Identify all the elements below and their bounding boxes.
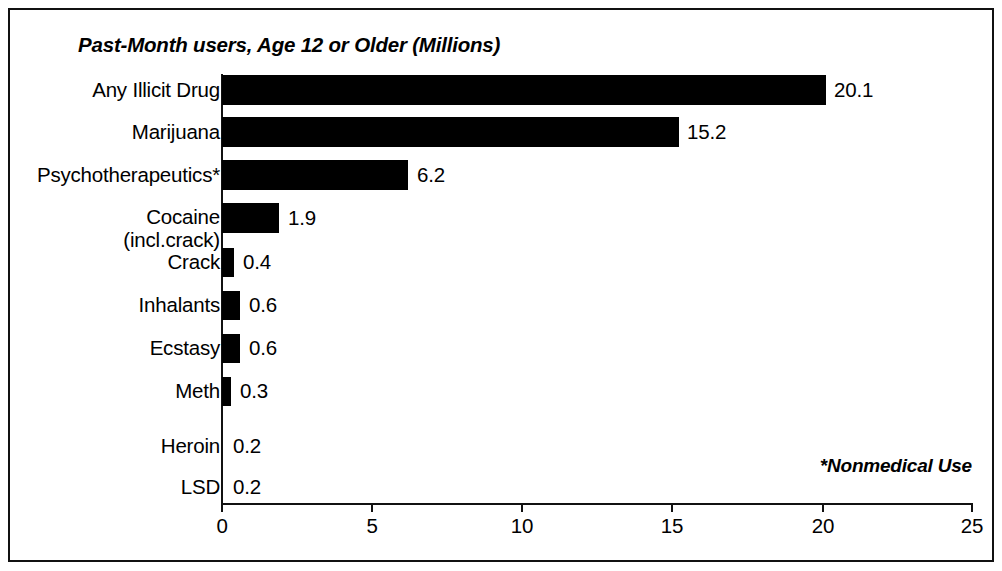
- x-tick-10: [521, 503, 523, 512]
- x-axis-line: [222, 503, 973, 505]
- plot-area: Any Illicit Drug 20.1 Marijuana 15.2 Psy…: [0, 0, 1002, 571]
- x-tick-0: [221, 503, 223, 512]
- x-tick-label-15: 15: [661, 514, 683, 538]
- bar-cocaine: [222, 203, 279, 233]
- chart-footnote: *Nonmedical Use: [820, 455, 972, 477]
- bar-inhalants: [222, 291, 240, 320]
- bar-value-crack: 0.4: [243, 250, 271, 274]
- x-tick-label-25: 25: [961, 514, 983, 538]
- x-tick-label-5: 5: [366, 514, 377, 538]
- category-label-text: LSD: [181, 475, 220, 498]
- category-label-crack: Crack: [167, 250, 220, 273]
- bar-value-heroin: 0.2: [233, 434, 261, 458]
- bar-value-marijuana: 15.2: [687, 120, 726, 144]
- category-label-text: Crack: [167, 250, 220, 273]
- x-tick-5: [371, 503, 373, 512]
- x-tick-25: [971, 503, 973, 512]
- category-label-text: Ecstasy: [150, 336, 220, 359]
- bar-marijuana: [222, 117, 679, 147]
- bar-value-ecstasy: 0.6: [249, 336, 277, 360]
- category-label-meth: Meth: [175, 379, 220, 402]
- bar-value-psychotherapeutics: 6.2: [417, 163, 445, 187]
- category-label-text: Any Illicit Drug: [92, 78, 220, 101]
- category-label-text-line1: Cocaine: [123, 205, 220, 228]
- category-label-psychotherapeutics: Psychotherapeutics*: [37, 163, 220, 186]
- bar-ecstasy: [222, 334, 240, 363]
- bar-value-any-illicit-drug: 20.1: [834, 78, 873, 102]
- category-label-marijuana: Marijuana: [132, 120, 220, 143]
- x-tick-label-0: 0: [216, 514, 227, 538]
- category-label-ecstasy: Ecstasy: [150, 336, 220, 359]
- chart-page: Past-Month users, Age 12 or Older (Milli…: [0, 0, 1002, 571]
- category-label-cocaine: Cocaine (incl.crack): [123, 205, 220, 251]
- bar-any-illicit-drug: [222, 75, 826, 105]
- bar-value-meth: 0.3: [240, 379, 268, 403]
- category-label-inhalants: Inhalants: [139, 293, 220, 316]
- bar-value-lsd: 0.2: [233, 475, 261, 499]
- x-tick-label-20: 20: [812, 514, 834, 538]
- bar-psychotherapeutics: [222, 160, 408, 190]
- category-label-heroin: Heroin: [161, 434, 220, 457]
- category-label-lsd: LSD: [181, 475, 220, 498]
- x-tick-label-10: 10: [511, 514, 533, 538]
- category-label-text: Meth: [175, 379, 220, 402]
- category-label-text: Heroin: [161, 434, 220, 457]
- category-label-text: Inhalants: [139, 293, 220, 316]
- bar-crack: [222, 248, 234, 277]
- x-tick-20: [822, 503, 824, 512]
- category-label-any-illicit-drug: Any Illicit Drug: [92, 78, 220, 101]
- bar-value-cocaine: 1.9: [288, 206, 316, 230]
- x-tick-15: [671, 503, 673, 512]
- category-label-text: Marijuana: [132, 120, 220, 143]
- bar-value-inhalants: 0.6: [249, 293, 277, 317]
- bar-meth: [222, 377, 231, 406]
- category-label-text-line2: (incl.crack): [123, 228, 220, 251]
- category-label-text: Psychotherapeutics*: [37, 163, 220, 186]
